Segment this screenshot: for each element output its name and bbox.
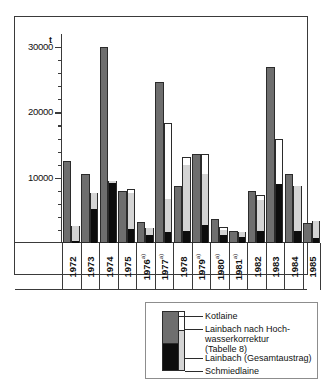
bar-stack-lainbach-1983: [275, 139, 284, 244]
legend-swatch-lainbach: [178, 311, 185, 371]
legend-label-hochwasserkorrektur-line1: Lainbach nach Hoch-: [205, 324, 290, 335]
legend-label-schmiedlaine: Schmiedlaine: [205, 366, 259, 377]
x-axis-cell-1977: 1977a): [155, 243, 174, 290]
bar-kotlaine-1977: [155, 82, 164, 243]
bar-stack-lainbach-1982: [256, 195, 265, 243]
bar-group-1979: [192, 34, 211, 243]
bar-stack-lainbach-1976: [145, 228, 154, 243]
bar-stack-lainbach-1978: [182, 157, 191, 243]
segment-schmiedlaine-1984: [293, 231, 302, 243]
x-axis-label-1982: 1982: [251, 256, 262, 277]
bar-group-1974: [99, 34, 118, 243]
legend-label-gesamtaustrag: Lainbach (Gesamtaustrag): [205, 353, 312, 364]
bar-kotlaine-1972: [63, 161, 72, 243]
segment-schmiedlaine-1983: [275, 184, 284, 243]
x-axis-cell-1978: 1978: [173, 243, 192, 290]
x-axis-cell-1981: 1981a): [229, 243, 248, 290]
x-axis-cell-1975: 1975: [118, 243, 137, 290]
segment-schmiedlaine-1979: [201, 225, 210, 243]
x-axis-cell-1972: 1972: [62, 243, 81, 290]
bar-group-1985: [303, 34, 322, 243]
x-axis-label-1973: 1973: [85, 256, 96, 277]
legend-swatch-kotlaine: [162, 311, 179, 344]
bar-kotlaine-1984: [285, 174, 294, 243]
bar-kotlaine-1981: [229, 231, 238, 243]
bar-group-1977: [155, 34, 174, 243]
x-axis-cell-1980: 1980a): [210, 243, 229, 290]
legend-swatch-schmiedlaine: [162, 344, 179, 371]
bar-kotlaine-1983: [266, 67, 275, 243]
x-axis-cell-1976: 1976a): [136, 243, 155, 290]
bar-kotlaine-1974: [100, 47, 109, 243]
bar-group-1983: [266, 34, 285, 243]
legend-box: Kotlaine Lainbach nach Hoch- wasserkorre…: [145, 302, 318, 379]
y-tick-20000: [55, 112, 62, 113]
bar-group-1980: [210, 34, 229, 243]
y-tick-label-10000: 10000: [17, 173, 53, 182]
segment-schmiedlaine-1978: [182, 231, 191, 243]
chart-frame: t 100002000030000 19721973197419751976a)…: [14, 16, 308, 275]
bar-kotlaine-1985: [303, 223, 312, 243]
y-tick-10000: [55, 178, 62, 179]
x-axis-label-1984: 1984: [288, 256, 299, 277]
segment-schmiedlaine-1980: [219, 235, 228, 243]
y-tick-label-20000: 20000: [17, 107, 53, 116]
segment-schmiedlaine-1973: [90, 209, 99, 243]
x-axis-cell-1974: 1974: [99, 243, 118, 290]
legend-swatch-main: [162, 311, 179, 371]
x-axis-label-1985: 1985: [306, 256, 317, 277]
bar-stack-lainbach-1979: [201, 154, 210, 243]
legend-label-hochwasserkorrektur-line2: wasserkorrektur: [205, 334, 269, 345]
bar-group-1978: [173, 34, 192, 243]
bar-stack-lainbach-1973: [90, 193, 99, 243]
segment-schmiedlaine-1982: [256, 231, 265, 243]
legend-swatch-hochwasserkorrektur: [178, 311, 185, 331]
bar-stack-lainbach-1975: [127, 189, 136, 243]
bar-stack-lainbach-1977: [164, 123, 173, 243]
bar-group-1973: [81, 34, 100, 243]
segment-schmiedlaine-1974: [108, 183, 117, 243]
legend-swatch-gesamtaustrag: [178, 331, 185, 371]
x-axis-label-1972: 1972: [66, 256, 77, 277]
bar-group-1972: [62, 34, 81, 243]
x-axis-label-note: a): [233, 253, 239, 258]
bar-kotlaine-1976: [137, 222, 146, 243]
bar-group-1975: [118, 34, 137, 243]
bar-kotlaine-1973: [81, 174, 90, 243]
y-tick-30000: [55, 47, 62, 48]
x-axis-year-cells: 19721973197419751976a)1977a)19781979a)19…: [62, 243, 321, 290]
x-axis-cell-1982: 1982: [247, 243, 266, 290]
segment-schmiedlaine-1977: [164, 232, 173, 243]
bar-kotlaine-1979: [192, 154, 201, 243]
x-axis-label-note: a): [214, 253, 220, 258]
bar-stack-lainbach-1981: [238, 232, 247, 243]
x-axis-label-1980: 1980a): [214, 253, 225, 279]
segment-schmiedlaine-1975: [127, 229, 136, 243]
x-axis-cell-1985: 1985: [303, 243, 322, 290]
x-axis-label-1979: 1979a): [196, 253, 207, 279]
bar-stack-lainbach-1984: [293, 186, 302, 243]
bar-stack-lainbach-1985: [312, 221, 321, 243]
x-axis-label-1976: 1976a): [140, 253, 151, 279]
segment-schmiedlaine-1976: [145, 235, 154, 243]
legend-leader-kotlaine: [179, 316, 203, 317]
bar-group-1984: [284, 34, 303, 243]
x-axis-label-1977: 1977a): [159, 253, 170, 279]
x-axis-label-1974: 1974: [103, 256, 114, 277]
bar-group-1976: [136, 34, 155, 243]
bar-stack-lainbach-1972: [71, 226, 80, 243]
x-axis-cell-1979: 1979a): [192, 243, 211, 290]
bar-stack-lainbach-1974: [108, 181, 117, 243]
legend-leader-gesamtaustrag: [185, 358, 203, 359]
x-axis-label-note: a): [159, 253, 165, 258]
x-axis-label-note: a): [140, 253, 146, 258]
bar-kotlaine-1980: [211, 219, 220, 243]
x-axis-bottom-line: [15, 289, 307, 290]
y-tick-label-30000: 30000: [17, 42, 53, 51]
legend-label-kotlaine: Kotlaine: [205, 311, 238, 322]
plot-area: [62, 34, 321, 243]
x-axis-cell-1983: 1983: [266, 243, 285, 290]
bar-kotlaine-1978: [174, 186, 183, 243]
bar-group-1981: [229, 34, 248, 243]
bar-kotlaine-1975: [118, 191, 127, 243]
